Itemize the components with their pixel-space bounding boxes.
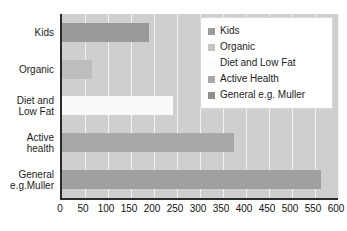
y-axis-category-labels: Kids Organic Diet and Low Fat Active hea… [0,14,58,198]
x-tick-label: 450 [259,202,276,216]
bar-active-health [62,133,234,152]
gridline [338,14,339,198]
x-tick-label: 200 [144,202,161,216]
bar-diet-and-low-fat [62,96,173,115]
x-tick-label: 100 [98,202,115,216]
y-axis-label-general-eg-muller: General e.g.Muller [0,161,58,198]
legend-item-label: Organic [220,41,255,53]
legend-item: Organic [208,39,326,55]
x-tick-label: 0 [57,202,63,216]
x-tick-label: 500 [282,202,299,216]
x-axis-tick-labels: 050100150200250300350400450500550600 [0,202,347,218]
bar-general-e.g.muller [62,170,321,189]
x-tick-label: 600 [328,202,345,216]
x-tick-label: 300 [190,202,207,216]
legend-item: Diet and Low Fat [208,55,326,71]
x-tick-label: 250 [167,202,184,216]
legend-item: Kids [208,23,326,39]
legend-swatch-icon [208,92,215,99]
bar-row [62,161,338,198]
x-tick-label: 350 [213,202,230,216]
y-axis-label-diet-and-low-fat: Diet and Low Fat [0,88,58,125]
y-axis-label-organic: Organic [0,51,58,88]
legend-swatch-icon [208,60,215,67]
y-axis-label-active-health: Active health [0,124,58,161]
x-axis-line [60,198,338,200]
x-tick-label: 550 [305,202,322,216]
x-tick-label: 50 [77,202,88,216]
bar-kids [62,23,149,42]
legend-swatch-icon [208,44,215,51]
legend-item-label: Diet and Low Fat [220,57,296,69]
bar-chart: Kids Organic Diet and Low Fat Active hea… [0,0,347,231]
legend-item: Active Health [208,71,326,87]
legend-item: General e.g. Muller [208,87,326,103]
x-tick-label: 400 [236,202,253,216]
bar-organic [62,60,92,79]
legend-item-label: General e.g. Muller [220,89,305,101]
y-axis-label-kids: Kids [0,14,58,51]
chart-legend: KidsOrganicDiet and Low FatActive Health… [200,17,333,109]
legend-item-label: Active Health [220,73,279,85]
bar-row [62,124,338,161]
x-tick-label: 150 [121,202,138,216]
legend-item-label: Kids [220,25,239,37]
legend-swatch-icon [208,76,215,83]
legend-swatch-icon [208,28,215,35]
